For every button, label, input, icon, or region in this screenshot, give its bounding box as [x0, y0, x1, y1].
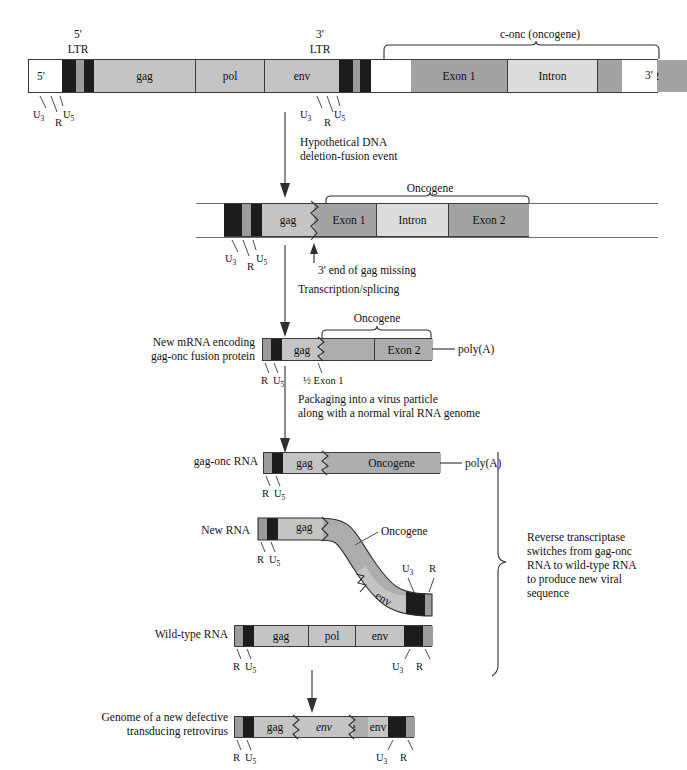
row7-u3-label: U3: [376, 751, 387, 768]
row7-ticks: [0, 0, 687, 770]
row7-u5-label: U5: [245, 751, 256, 768]
row7-u5-sub: 5: [253, 757, 257, 766]
row7-u3-sub: 3: [384, 757, 388, 766]
row7-r2-label: R: [400, 751, 407, 764]
row7-r-label: R: [233, 751, 240, 764]
